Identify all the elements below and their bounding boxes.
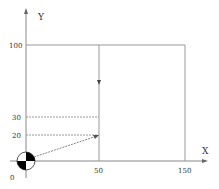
x-axis-arrowhead (202, 159, 208, 163)
origin-label: 0 (10, 174, 14, 182)
center-of-gravity-icon (17, 152, 35, 170)
coordinate-diagram: Y X 0 100 30 20 50 150 (0, 0, 219, 189)
x-axis-label: X (202, 146, 209, 156)
x-tick-150: 150 (178, 167, 191, 175)
y-tick-20: 20 (12, 132, 21, 140)
arrow-line (34, 136, 97, 157)
y-tick-30: 30 (12, 114, 21, 122)
y-tick-100: 100 (9, 42, 22, 50)
down-arrow-marker (97, 80, 101, 85)
y-axis-label: Y (37, 12, 45, 22)
x-tick-50: 50 (94, 167, 103, 175)
y-axis-arrowhead (24, 8, 28, 14)
